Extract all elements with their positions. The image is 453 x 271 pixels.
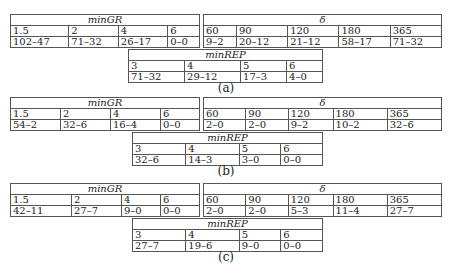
- param-cell: 4: [118, 26, 167, 37]
- mingr-table-c: minGR 1.5 2 4 6 42–11 27–7 9–0 0–0: [10, 183, 200, 217]
- delta-table-c: δ 60 90 120 180 365 2–0 2–0 5–3 11–4 27–…: [203, 183, 442, 217]
- value-cell: 27–7: [71, 206, 121, 217]
- param-cell: 2: [69, 26, 118, 37]
- param-cell: 120: [288, 26, 339, 37]
- mingr-table-b: minGR 1.5 2 4 6 54–2 32–6 16–4 0–0: [10, 97, 200, 131]
- param-cell: 60: [204, 109, 246, 120]
- value-cell: 2–0: [246, 120, 288, 131]
- value-cell: 2–0: [246, 206, 288, 217]
- minrep-table-b: minREP 3 4 5 6 32–6 14–3 3–0 0–0: [132, 132, 323, 166]
- delta-table-a: δ 60 90 120 180 365 9–2 20–12 21–12 58–1…: [203, 14, 442, 48]
- param-cell: 6: [160, 195, 199, 206]
- value-cell: 16–4: [110, 120, 160, 131]
- value-cell: 0–0: [160, 120, 199, 131]
- caption-b: (b): [206, 164, 246, 178]
- table-title: minGR: [11, 15, 200, 26]
- param-cell: 3: [133, 144, 186, 155]
- param-cell: 180: [333, 195, 387, 206]
- table-title: minGR: [11, 98, 200, 109]
- param-cell: 6: [168, 26, 200, 37]
- table-title: δ: [204, 15, 442, 26]
- param-cell: 4: [186, 144, 239, 155]
- value-cell: 20–12: [236, 37, 287, 48]
- value-cell: 0–0: [168, 37, 200, 48]
- param-cell: 90: [246, 195, 288, 206]
- param-cell: 3: [129, 61, 185, 72]
- param-cell: 1.5: [11, 195, 72, 206]
- value-cell: 71–32: [129, 72, 185, 83]
- param-cell: 365: [390, 26, 441, 37]
- param-cell: 2: [60, 109, 110, 120]
- param-cell: 120: [288, 109, 333, 120]
- value-cell: 17–3: [241, 72, 287, 83]
- value-cell: 2–0: [204, 120, 246, 131]
- value-cell: 54–2: [11, 120, 61, 131]
- param-cell: 3: [133, 230, 186, 241]
- param-cell: 90: [236, 26, 287, 37]
- param-cell: 6: [281, 144, 323, 155]
- mingr-table-a: minGR 1.5 2 4 6 102–47 71–32 26–17 0–0: [10, 14, 200, 48]
- param-cell: 90: [246, 109, 288, 120]
- value-cell: 71–32: [390, 37, 441, 48]
- param-cell: 60: [204, 195, 246, 206]
- value-cell: 27–7: [133, 241, 186, 252]
- param-cell: 5: [239, 144, 281, 155]
- caption-a: (a): [206, 81, 246, 95]
- param-cell: 6: [160, 109, 199, 120]
- value-cell: 2–0: [204, 206, 246, 217]
- param-cell: 5: [241, 61, 287, 72]
- value-cell: 11–4: [333, 206, 387, 217]
- value-cell: 27–7: [387, 206, 441, 217]
- delta-table-b: δ 60 90 120 180 365 2–0 2–0 9–2 10–2 32–…: [203, 97, 442, 131]
- value-cell: 9–2: [204, 37, 237, 48]
- table-title: minREP: [133, 133, 323, 144]
- table-title: δ: [204, 98, 442, 109]
- table-title: minREP: [129, 50, 323, 61]
- param-cell: 365: [387, 109, 441, 120]
- minrep-table-a: minREP 3 4 5 6 71–32 29–12 17–3 4–0: [128, 49, 323, 83]
- table-title: minGR: [11, 184, 200, 195]
- param-cell: 1.5: [11, 109, 61, 120]
- minrep-table-c: minREP 3 4 5 6 27–7 19–6 9–0 0–0: [132, 218, 323, 252]
- value-cell: 0–0: [281, 241, 323, 252]
- caption-c: (c): [206, 250, 246, 264]
- param-cell: 120: [288, 195, 333, 206]
- value-cell: 9–0: [121, 206, 160, 217]
- param-cell: 4: [186, 230, 239, 241]
- param-cell: 1.5: [11, 26, 69, 37]
- param-cell: 365: [387, 195, 441, 206]
- param-cell: 4: [110, 109, 160, 120]
- param-cell: 6: [281, 230, 323, 241]
- value-cell: 21–12: [288, 37, 339, 48]
- value-cell: 10–2: [333, 120, 387, 131]
- value-cell: 0–0: [160, 206, 199, 217]
- value-cell: 58–17: [339, 37, 390, 48]
- value-cell: 9–2: [288, 120, 333, 131]
- value-cell: 71–32: [69, 37, 118, 48]
- param-cell: 4: [121, 195, 160, 206]
- param-cell: 180: [339, 26, 390, 37]
- value-cell: 42–11: [11, 206, 72, 217]
- value-cell: 102–47: [11, 37, 69, 48]
- param-cell: 180: [333, 109, 387, 120]
- value-cell: 4–0: [287, 72, 323, 83]
- value-cell: 0–0: [281, 155, 323, 166]
- table-title: minREP: [133, 219, 323, 230]
- param-cell: 6: [287, 61, 323, 72]
- value-cell: 5–3: [288, 206, 333, 217]
- param-cell: 60: [204, 26, 237, 37]
- value-cell: 32–6: [387, 120, 441, 131]
- table-title: δ: [204, 184, 442, 195]
- param-cell: 5: [239, 230, 281, 241]
- value-cell: 26–17: [118, 37, 167, 48]
- param-cell: 4: [185, 61, 241, 72]
- value-cell: 32–6: [133, 155, 186, 166]
- value-cell: 32–6: [60, 120, 110, 131]
- param-cell: 2: [71, 195, 121, 206]
